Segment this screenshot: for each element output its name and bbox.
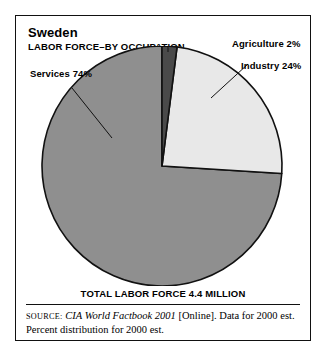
pie-chart (16, 46, 309, 286)
source-work-title: CIA World Factbook 2001 (65, 310, 176, 321)
source-label: Source: (26, 312, 63, 321)
source-divider (26, 304, 300, 305)
source-note: Source: CIA World Factbook 2001 [Online]… (26, 309, 304, 336)
callout-label-agriculture: Agriculture 2% (232, 38, 300, 49)
total-labor-force-caption: TOTAL LABOR FORCE 4.4 MILLION (16, 288, 310, 299)
figure-frame: Sweden LABOR FORCE–BY OCCUPATION Service… (15, 15, 311, 341)
pie-chart-svg (16, 46, 309, 286)
callout-label-services: Services 74% (30, 68, 92, 79)
callout-label-industry: Industry 24% (241, 60, 301, 71)
page-title: Sweden (28, 25, 78, 40)
